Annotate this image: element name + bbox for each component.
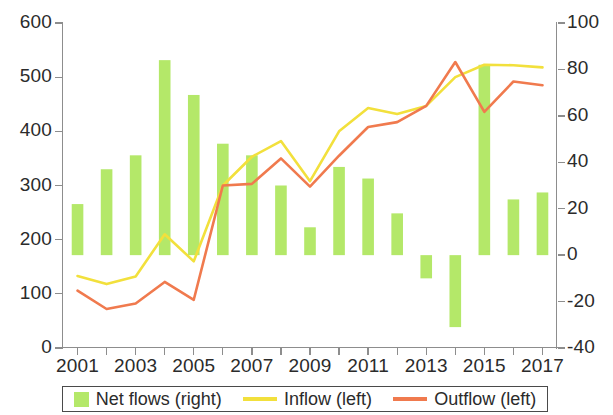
bar-2014 [449, 255, 461, 327]
bar-2011 [362, 179, 374, 256]
bar-2013 [420, 255, 432, 278]
bar-2010 [333, 167, 345, 255]
x-tick-mark [367, 348, 368, 355]
right-tick-mark [558, 208, 565, 209]
chart-legend: Net flows (right)Inflow (left)Outflow (l… [62, 386, 548, 412]
left-axis-tick-label: 400 [20, 119, 52, 141]
right-tick-mark [558, 301, 565, 302]
bar-2017 [537, 192, 549, 255]
x-axis-tick-label: 2001 [56, 355, 99, 377]
legend-item-label: Outflow (left) [434, 389, 536, 410]
right-axis-tick-label: 0 [567, 243, 578, 265]
x-tick-mark [164, 348, 165, 355]
bar-2007 [246, 155, 258, 255]
right-axis-tick-label: 20 [567, 197, 589, 219]
x-tick-mark [280, 348, 281, 355]
x-axis-tick-label: 2015 [463, 355, 506, 377]
left-tick-mark [55, 22, 62, 23]
legend-swatch-line-icon [393, 397, 427, 400]
flow-lines [78, 62, 543, 309]
x-tick-mark [338, 348, 339, 355]
x-tick-mark [193, 348, 194, 355]
left-axis-tick-label: 200 [20, 228, 52, 250]
right-axis-tick-label: -40 [567, 336, 595, 358]
left-axis-tick-label: 300 [20, 174, 52, 196]
x-axis-tick-label: 2005 [172, 355, 215, 377]
left-tick-mark [55, 131, 62, 132]
left-axis-tick-label: 500 [20, 65, 52, 87]
left-tick-mark [55, 77, 62, 78]
x-tick-mark [542, 348, 543, 355]
legend-item-2[interactable]: Outflow (left) [393, 389, 536, 410]
x-axis-tick-label: 2011 [347, 355, 389, 377]
bar-2005 [188, 95, 200, 255]
x-axis-tick-label: 2003 [114, 355, 157, 377]
plot-area [63, 23, 557, 348]
right-axis-tick-label: 80 [567, 57, 589, 79]
legend-swatch-box-icon [74, 392, 89, 407]
left-tick-mark [55, 347, 62, 348]
left-tick-mark [55, 239, 62, 240]
x-tick-mark [309, 348, 310, 355]
legend-item-1[interactable]: Inflow (left) [243, 389, 372, 410]
bar-2016 [508, 199, 520, 255]
left-tick-mark [55, 293, 62, 294]
x-tick-mark [135, 348, 136, 355]
bar-2001 [72, 204, 84, 255]
x-tick-mark [484, 348, 485, 355]
right-axis-tick-label: 40 [567, 150, 589, 172]
legend-swatch-line-icon [243, 397, 277, 400]
x-axis-tick-label: 2017 [521, 355, 564, 377]
bar-2012 [391, 213, 403, 255]
legend-item-0[interactable]: Net flows (right) [74, 389, 222, 410]
x-tick-mark [77, 348, 78, 355]
x-axis-tick-label: 2007 [230, 355, 273, 377]
right-tick-mark [558, 22, 565, 23]
left-axis-tick-label: 100 [20, 282, 52, 304]
left-tick-mark [55, 185, 62, 186]
right-axis-tick-label: -20 [567, 290, 595, 312]
left-axis-tick-label: 0 [41, 336, 52, 358]
bar-2002 [101, 169, 113, 255]
legend-item-label: Net flows (right) [96, 389, 222, 410]
x-tick-mark [426, 348, 427, 355]
left-axis-tick-label: 600 [20, 11, 52, 33]
right-axis-tick-label: 60 [567, 104, 589, 126]
right-tick-mark [558, 115, 565, 116]
x-tick-mark [222, 348, 223, 355]
right-tick-mark [558, 162, 565, 163]
bar-2003 [130, 155, 142, 255]
x-tick-mark [397, 348, 398, 355]
bar-2009 [304, 227, 316, 255]
x-tick-mark [455, 348, 456, 355]
right-tick-mark [558, 347, 565, 348]
x-tick-mark [106, 348, 107, 355]
x-axis-tick-label: 2013 [405, 355, 448, 377]
x-tick-mark [513, 348, 514, 355]
right-tick-mark [558, 69, 565, 70]
x-axis-tick-label: 2009 [288, 355, 331, 377]
bar-2015 [479, 65, 491, 255]
bar-2004 [159, 60, 171, 255]
line-outflow-left [78, 62, 543, 309]
legend-item-label: Inflow (left) [284, 389, 372, 410]
x-tick-mark [251, 348, 252, 355]
chart-container: 0100200300400500600 -40-20020406080100 2… [0, 0, 613, 415]
right-tick-mark [558, 254, 565, 255]
right-axis-tick-label: 100 [567, 11, 599, 33]
bar-2008 [275, 186, 287, 256]
plot-svg [63, 23, 557, 348]
